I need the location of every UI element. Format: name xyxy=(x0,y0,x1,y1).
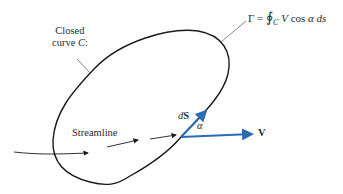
velocity-vector xyxy=(181,134,252,137)
streamline-segment-2 xyxy=(107,140,138,147)
closed-curve-label: Closed curve C: xyxy=(52,25,88,49)
closed-curve-leader xyxy=(77,59,91,74)
ds-label: dS xyxy=(178,110,189,122)
circulation-leader xyxy=(221,21,246,42)
alpha-label: α xyxy=(197,120,203,132)
circulation-equation: Γ = ∮C V cos α ds xyxy=(248,12,326,29)
closed-curve-label-line2: curve C: xyxy=(52,37,88,49)
closed-curve-c xyxy=(53,30,229,184)
closed-curve-label-line1: Closed xyxy=(52,25,88,37)
streamline-segment-3 xyxy=(150,135,176,139)
streamline-segment-1 xyxy=(14,152,88,154)
velocity-label: V xyxy=(258,127,266,139)
streamline-label: Streamline xyxy=(72,127,118,139)
